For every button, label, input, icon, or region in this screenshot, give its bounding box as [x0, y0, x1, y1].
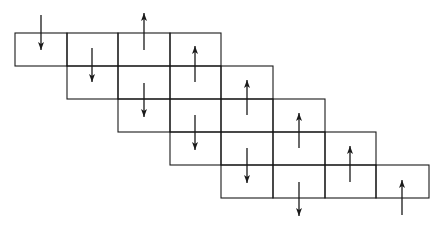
arrow-up-icon [296, 113, 302, 148]
arrow-up-icon [192, 46, 198, 82]
arrow-up-icon [347, 146, 353, 182]
arrow-down-icon [89, 48, 95, 82]
arrow-down-icon [296, 182, 302, 216]
lattice-cells [15, 33, 429, 198]
spin-lattice-diagram [0, 0, 444, 226]
arrow-up-icon [244, 80, 250, 115]
arrow-up-icon [141, 13, 147, 50]
arrow-down-icon [141, 83, 147, 117]
